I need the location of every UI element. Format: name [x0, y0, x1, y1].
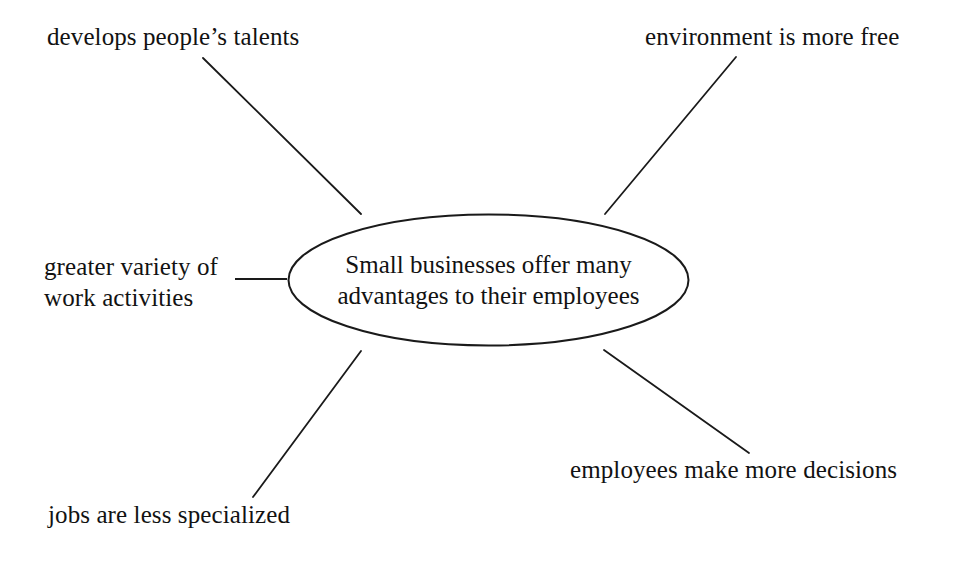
central-concept-node: Small businesses offer many advantages t…: [287, 213, 690, 347]
branch-label-greater-variety: greater variety of work activities: [44, 252, 218, 313]
connector-employees-decisions: [604, 350, 749, 453]
connector-jobs-less-specialized: [253, 351, 361, 497]
branch-label-jobs-less-specialized: jobs are less specialized: [48, 500, 290, 531]
concept-map-diagram: develops people’s talents environment is…: [0, 0, 966, 564]
connector-develops-talents: [203, 58, 361, 214]
branch-label-develops-talents: develops people’s talents: [47, 22, 299, 53]
connector-environment-free: [605, 57, 736, 214]
branch-label-employees-decisions: employees make more decisions: [570, 455, 897, 486]
branch-label-environment-free: environment is more free: [645, 22, 899, 53]
central-concept-text: Small businesses offer many advantages t…: [324, 249, 654, 311]
